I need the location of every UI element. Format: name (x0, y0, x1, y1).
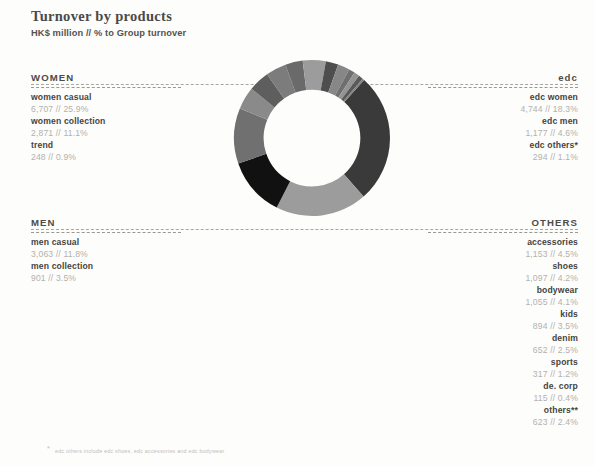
item-label: edc others* (428, 140, 578, 152)
item-label: kids (428, 309, 578, 321)
item-value: 4,744 // 18.3% (428, 104, 578, 116)
section-others: OTHERS accessories 1,153 // 4.5% shoes 1… (428, 217, 578, 429)
footnote-marker: * (47, 445, 50, 452)
item-label: women casual (31, 92, 181, 104)
list-item: men casual 3,063 // 11.8% (31, 237, 181, 260)
item-value: 317 // 1.2% (428, 369, 578, 381)
item-value: 3,063 // 11.8% (31, 249, 181, 261)
section-heading-women: WOMEN (31, 72, 181, 84)
list-item: de. corp 115 // 0.4% (428, 381, 578, 404)
section-rule-others (428, 232, 578, 233)
item-value: 294 // 1.1% (428, 152, 578, 164)
section-women: WOMEN women casual 6,707 // 25.9% women … (31, 72, 181, 164)
list-item: bodywear 1,055 // 4.1% (428, 285, 578, 308)
item-value: 6,707 // 25.9% (31, 104, 181, 116)
list-item: edc others* 294 // 1.1% (428, 140, 578, 163)
list-item: others** 623 // 2.4% (428, 405, 578, 428)
list-item: accessories 1,153 // 4.5% (428, 237, 578, 260)
section-rule-men (31, 232, 181, 233)
donut-chart-svg (232, 58, 392, 218)
list-item: denim 652 // 2.5% (428, 333, 578, 356)
item-value: 2,871 // 11.1% (31, 128, 181, 140)
list-item: edc men 1,177 // 4.6% (428, 116, 578, 139)
item-label: bodywear (428, 285, 578, 297)
item-label: men collection (31, 261, 181, 273)
section-heading-others: OTHERS (428, 217, 578, 229)
list-item: trend 248 // 0.9% (31, 140, 181, 163)
item-label: sports (428, 357, 578, 369)
item-value: 1,097 // 4.2% (428, 273, 578, 285)
page-subtitle: HK$ million // % to Group turnover (31, 28, 186, 38)
figure-root: Turnover by products HK$ million // % to… (0, 0, 595, 466)
donut-chart (232, 58, 392, 218)
item-label: women collection (31, 116, 181, 128)
item-value: 623 // 2.4% (428, 417, 578, 429)
item-value: 115 // 0.4% (428, 393, 578, 405)
list-item: edc women 4,744 // 18.3% (428, 92, 578, 115)
list-item: women casual 6,707 // 25.9% (31, 92, 181, 115)
item-label: trend (31, 140, 181, 152)
list-item: sports 317 // 1.2% (428, 357, 578, 380)
item-value: 1,153 // 4.5% (428, 249, 578, 261)
section-edc: edc edc women 4,744 // 18.3% edc men 1,1… (428, 72, 578, 164)
section-rule-edc (428, 87, 578, 88)
footnote-text: edc others include edc shoes, edc access… (55, 448, 224, 454)
item-label: de. corp (428, 381, 578, 393)
item-value: 894 // 3.5% (428, 321, 578, 333)
item-label: men casual (31, 237, 181, 249)
item-label: edc women (428, 92, 578, 104)
list-item: kids 894 // 3.5% (428, 309, 578, 332)
page-title: Turnover by products (31, 8, 172, 25)
item-label: edc men (428, 116, 578, 128)
donut-slice (344, 80, 390, 196)
item-value: 248 // 0.9% (31, 152, 181, 164)
section-men: MEN men casual 3,063 // 11.8% men collec… (31, 217, 181, 285)
item-label: denim (428, 333, 578, 345)
section-heading-edc: edc (428, 72, 578, 84)
item-label: accessories (428, 237, 578, 249)
item-value: 1,177 // 4.6% (428, 128, 578, 140)
section-heading-men: MEN (31, 217, 181, 229)
item-label: shoes (428, 261, 578, 273)
list-item: women collection 2,871 // 11.1% (31, 116, 181, 139)
item-value: 901 // 3.5% (31, 273, 181, 285)
list-item: men collection 901 // 3.5% (31, 261, 181, 284)
section-rule-women (31, 87, 181, 88)
list-item: shoes 1,097 // 4.2% (428, 261, 578, 284)
item-label: others** (428, 405, 578, 417)
item-value: 652 // 2.5% (428, 345, 578, 357)
item-value: 1,055 // 4.1% (428, 297, 578, 309)
